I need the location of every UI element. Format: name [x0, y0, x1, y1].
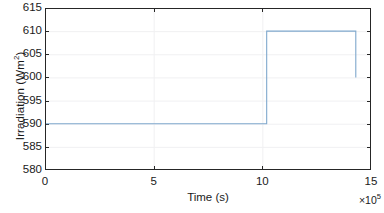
x-axis-tick-label: 10 — [242, 176, 282, 188]
plot-svg — [45, 8, 371, 170]
y-axis-tick-label: 585 — [6, 141, 42, 153]
exponent-power: 5 — [377, 192, 381, 201]
y-axis-tick-label: 600 — [6, 72, 42, 84]
y-axis-tick-label: 595 — [6, 95, 42, 107]
y-axis-tick-label: 590 — [6, 118, 42, 130]
y-axis-tick-label: 605 — [6, 49, 42, 61]
axes-frame — [46, 9, 371, 170]
x-axis-tick-label: 0 — [25, 176, 65, 188]
chart-figure: Irradiation (Wm2) 6156106056005955905855… — [0, 0, 384, 213]
x-axis-exponent-label: ×105 — [359, 192, 381, 206]
plot-area — [45, 8, 371, 170]
y-axis-tick-label: 615 — [6, 2, 42, 14]
tick-marks — [45, 8, 371, 170]
x-axis-tick-label: 5 — [134, 176, 174, 188]
x-axis-tick-label: 15 — [351, 176, 384, 188]
data-series-line — [45, 31, 356, 124]
y-axis-tick-label: 610 — [6, 25, 42, 37]
x-axis-tick-labels: 051015 — [0, 176, 384, 192]
gridlines — [45, 8, 371, 170]
exponent-prefix: ×10 — [359, 194, 377, 206]
x-axis-label: Time (s) — [45, 191, 371, 203]
y-axis-tick-label: 580 — [6, 164, 42, 176]
